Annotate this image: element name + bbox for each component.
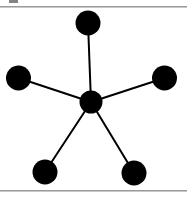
figure-page — [0, 0, 187, 197]
graph-node-bottom-left — [33, 160, 58, 185]
star-graph-canvas — [0, 0, 187, 197]
graph-edge-hub-to-bottom-left — [45, 102, 91, 172]
graph-node-hub — [80, 91, 103, 114]
graph-node-left — [6, 66, 31, 91]
graph-node-bottom-right — [122, 161, 147, 186]
horizontal-rule-bottom — [0, 190, 187, 191]
graph-node-layer — [6, 11, 177, 186]
graph-node-right — [152, 66, 177, 91]
graph-node-top — [76, 11, 101, 36]
